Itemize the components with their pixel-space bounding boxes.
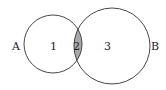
set-b-label: B [151, 40, 159, 53]
venn-diagram: A 1 2 3 B [0, 0, 166, 90]
region-1-label: 1 [50, 40, 57, 53]
circle-b [74, 8, 150, 84]
set-a-label: A [11, 40, 21, 53]
region-3-label: 3 [104, 40, 111, 53]
region-2-label: 2 [73, 40, 80, 53]
